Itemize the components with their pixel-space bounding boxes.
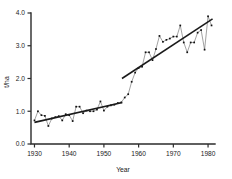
data-point-marker xyxy=(183,42,185,44)
data-point-marker xyxy=(169,38,171,40)
data-point-marker xyxy=(72,120,74,122)
data-point-marker xyxy=(159,35,161,37)
data-point-marker xyxy=(61,120,63,122)
data-point-marker xyxy=(176,36,178,38)
x-tick-label: 1980 xyxy=(201,150,216,157)
x-axis-title: Year xyxy=(116,166,130,173)
data-point-marker xyxy=(193,42,195,44)
y-tick-label: 3.0 xyxy=(16,42,25,49)
y-axis-tick-labels: 0.01.02.03.04.0 xyxy=(16,9,25,147)
data-point-marker xyxy=(179,25,181,27)
data-point-marker xyxy=(82,112,84,114)
data-point-marker xyxy=(34,120,36,122)
trend-line-early xyxy=(34,102,122,122)
data-point-marker xyxy=(44,115,46,117)
y-tick-label: 0.0 xyxy=(16,140,25,147)
data-point-marker xyxy=(41,114,43,116)
data-point-marker xyxy=(166,39,168,41)
annual-yield-markers xyxy=(34,15,213,126)
axes-group xyxy=(28,13,216,148)
data-point-marker xyxy=(48,125,50,127)
y-tick-label: 1.0 xyxy=(16,108,25,115)
data-point-marker xyxy=(100,101,102,103)
data-point-marker xyxy=(124,97,126,99)
data-point-marker xyxy=(37,110,39,112)
data-point-marker xyxy=(172,36,174,38)
data-point-marker xyxy=(79,106,81,108)
chart-container: 0.01.02.03.04.0 193019401950196019701980… xyxy=(0,0,232,179)
y-tick-label: 4.0 xyxy=(16,9,25,16)
yield-trend-chart: 0.01.02.03.04.0 193019401950196019701980… xyxy=(0,0,232,179)
data-point-marker xyxy=(131,81,133,83)
trend-line-late xyxy=(122,19,213,79)
data-point-marker xyxy=(103,110,105,112)
data-point-marker xyxy=(134,72,136,74)
data-point-marker xyxy=(204,49,206,51)
x-tick-label: 1940 xyxy=(62,150,77,157)
data-point-marker xyxy=(93,110,95,112)
data-point-marker xyxy=(162,41,164,43)
y-tick-label: 2.0 xyxy=(16,75,25,82)
x-axis-tick-labels: 193019401950196019701980 xyxy=(27,150,216,157)
data-point-marker xyxy=(207,15,209,17)
data-point-marker xyxy=(75,106,77,108)
data-point-marker xyxy=(197,32,199,34)
data-point-marker xyxy=(145,51,147,53)
data-point-marker xyxy=(200,29,202,31)
x-tick-label: 1970 xyxy=(166,150,181,157)
data-point-marker xyxy=(190,42,192,44)
data-point-marker xyxy=(155,48,157,50)
data-point-marker xyxy=(186,51,188,53)
x-tick-label: 1930 xyxy=(27,150,42,157)
data-point-marker xyxy=(211,25,213,27)
x-tick-label: 1950 xyxy=(97,150,112,157)
data-point-marker xyxy=(127,93,129,95)
data-point-marker xyxy=(148,51,150,53)
annual-yield-line xyxy=(34,16,211,126)
x-tick-label: 1960 xyxy=(131,150,146,157)
y-axis-title: t/ha xyxy=(3,76,10,88)
